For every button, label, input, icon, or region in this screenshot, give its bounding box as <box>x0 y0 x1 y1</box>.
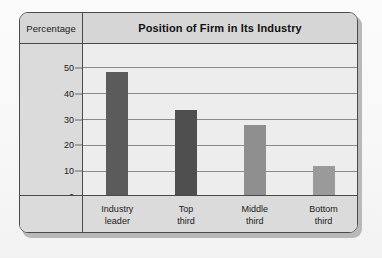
y-axis-tick-mark <box>75 67 82 68</box>
chart-frame: Percentage Position of Firm in Its Indus… <box>19 12 358 233</box>
chart-title: Position of Firm in Its Industry <box>138 22 302 34</box>
y-axis-tick-mark <box>75 93 82 94</box>
chart-header: Percentage Position of Firm in Its Indus… <box>20 13 357 44</box>
y-axis-title: Percentage <box>26 23 76 34</box>
axis-column-divider <box>82 44 83 232</box>
y-axis-tick-mark <box>75 171 82 172</box>
y-axis-tick-label: 50 <box>64 63 74 73</box>
x-axis-category-label: Topthird <box>152 204 221 227</box>
y-axis-tick-label: 40 <box>64 89 74 99</box>
x-axis-category-label: Industryleader <box>83 204 152 227</box>
y-axis-tick-mark <box>75 145 82 146</box>
figure-page: Percentage Position of Firm in Its Indus… <box>0 0 382 258</box>
y-axis-tick-label: 10 <box>64 166 74 176</box>
bar <box>244 125 266 196</box>
chart-body: 01020304050 IndustryleaderTopthirdMiddle… <box>20 44 357 232</box>
y-axis-tick-label: 20 <box>64 140 74 150</box>
bar <box>106 72 128 196</box>
bar <box>175 110 197 196</box>
x-axis-category-label: Bottomthird <box>289 204 358 227</box>
x-axis-category-label: Middlethird <box>221 204 290 227</box>
y-axis-tick-mark <box>75 119 82 120</box>
bar <box>313 166 335 196</box>
y-axis-tick-label: 30 <box>64 115 74 125</box>
gridline <box>83 67 357 68</box>
y-axis-header-cell: Percentage <box>20 13 82 43</box>
category-label-band: IndustryleaderTopthirdMiddlethirdBottomt… <box>20 195 357 232</box>
chart-title-cell: Position of Firm in Its Industry <box>83 13 357 43</box>
